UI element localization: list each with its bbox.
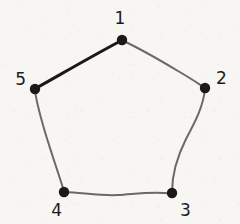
paper-background [0, 0, 240, 224]
vertex-dot-4 [59, 187, 69, 197]
vertex-dot-3 [167, 188, 177, 198]
vertex-dot-1 [117, 35, 127, 45]
vertex-label-3: 3 [180, 200, 191, 220]
vertex-dot-2 [200, 83, 210, 93]
pentagon-diagram-canvas: 1 2 3 4 5 [0, 0, 240, 224]
vertex-dot-5 [30, 84, 40, 94]
vertex-label-5: 5 [15, 69, 26, 89]
pentagon-figure: 1 2 3 4 5 [0, 0, 240, 224]
vertex-label-1: 1 [115, 8, 126, 28]
vertex-label-4: 4 [51, 200, 62, 220]
vertex-label-2: 2 [216, 68, 227, 88]
